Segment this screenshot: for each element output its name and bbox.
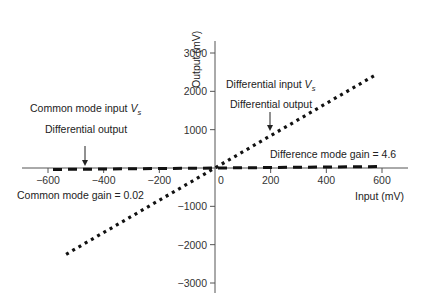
annotation-common-mode-input: Common mode input Vs <box>30 102 141 117</box>
annotation-differential-input: Differential input Vs <box>226 78 316 93</box>
y-tick-label: 1000 <box>184 124 208 136</box>
x-tick-label: −200 <box>148 174 172 186</box>
x-tick-label: −400 <box>92 174 116 186</box>
annotation-common-mode-gain: Common mode gain = 0.02 <box>17 189 144 201</box>
y-tick-label: −2000 <box>178 239 208 251</box>
y-tick-label: −1000 <box>178 200 208 212</box>
x-tick-label: 600 <box>373 174 391 186</box>
x-tick-label: −600 <box>36 174 60 186</box>
arrow-head-icon <box>82 160 88 166</box>
gain-chart: −600−400−2000200400600 300020001000−1000… <box>0 0 422 307</box>
axes <box>22 41 408 293</box>
x-axis-title: Input (mV) <box>355 190 404 202</box>
arrow-head-icon <box>267 125 273 131</box>
y-axis-title: Output (mV) <box>190 31 202 88</box>
annotation-differential-output: Differential output <box>230 98 312 110</box>
x-tick-label: 400 <box>318 174 336 186</box>
annotation-difference-mode-gain: Difference mode gain = 4.6 <box>270 148 396 160</box>
x-tick-label: 0 <box>218 174 224 186</box>
x-ticks: −600−400−2000200400600 <box>36 168 391 186</box>
x-tick-label: 200 <box>262 174 280 186</box>
y-tick-label: −3000 <box>178 277 208 289</box>
annotation-common-mode-differential-output: Differential output <box>45 123 127 135</box>
